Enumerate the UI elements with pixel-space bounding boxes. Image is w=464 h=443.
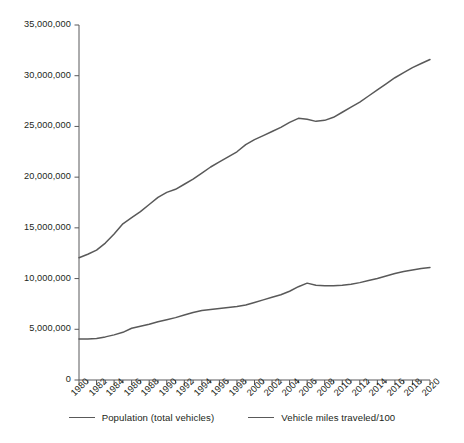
- y-tick-label: 25,000,000: [24, 120, 71, 130]
- series-line-1: [79, 59, 430, 257]
- y-tick-label: 15,000,000: [24, 222, 71, 232]
- y-tick-label: 10,000,000: [24, 273, 71, 283]
- chart-axes: [75, 25, 431, 385]
- legend-line-swatch: [248, 417, 274, 418]
- y-tick-label: 35,000,000: [24, 19, 71, 29]
- legend-label: Vehicle miles traveled/100: [281, 412, 395, 423]
- y-tick-label: 20,000,000: [24, 171, 71, 181]
- legend-label: Population (total vehicles): [102, 412, 215, 423]
- line-chart: 05,000,00010,000,00015,000,00020,000,000…: [0, 0, 464, 443]
- chart-legend: Population (total vehicles)Vehicle miles…: [0, 412, 464, 423]
- legend-line-swatch: [69, 417, 95, 418]
- y-tick-label: 30,000,000: [24, 70, 71, 80]
- chart-series-lines: [79, 59, 430, 338]
- y-tick-label: 0: [66, 374, 71, 384]
- legend-item-1[interactable]: Population (total vehicles): [69, 412, 215, 423]
- y-tick-label: 5,000,000: [29, 323, 71, 333]
- legend-item-2[interactable]: Vehicle miles traveled/100: [248, 412, 395, 423]
- series-line-2: [79, 267, 430, 339]
